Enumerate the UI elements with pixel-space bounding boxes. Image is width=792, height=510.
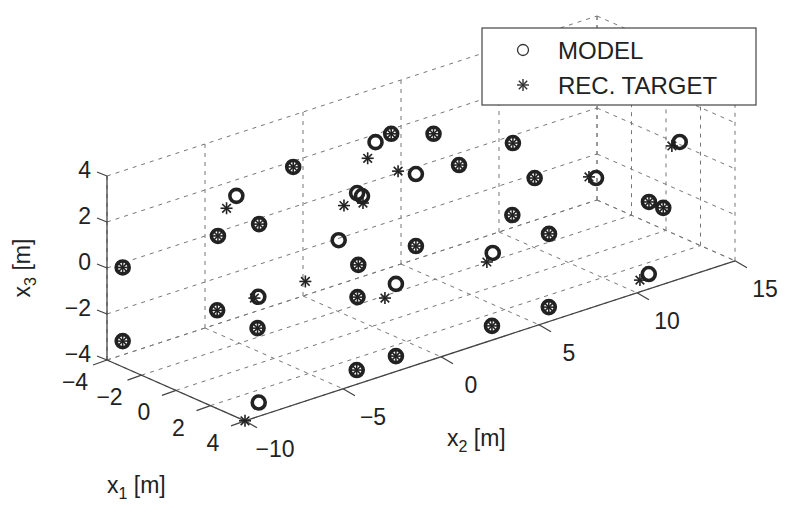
x2-tick xyxy=(637,293,649,300)
x2-tick-label: 15 xyxy=(752,276,778,302)
x3-axis-label: x3 [m] xyxy=(9,239,39,298)
rec-target-point xyxy=(352,291,364,303)
rec-target-point xyxy=(252,322,264,334)
scatter3d-chart: −4−2024−4−2024−10−5051015 x3 [m] x1 [m] … xyxy=(0,0,792,510)
x1-tick-label: −4 xyxy=(62,369,88,395)
grid-line-back-x3 xyxy=(107,154,597,314)
x3-axis-label-subscript: 3 xyxy=(22,277,39,286)
x2-axis-label: x2 [m] xyxy=(447,425,506,455)
x2-tick xyxy=(735,261,747,268)
model-point xyxy=(409,168,422,181)
x3-tick-label: 4 xyxy=(78,157,91,183)
svg-text:x3 [m]: x3 [m] xyxy=(9,239,39,298)
x2-axis-label-subscript: 2 xyxy=(459,438,468,455)
x3-tick xyxy=(97,218,107,222)
rec-target-point xyxy=(543,301,555,313)
grid-line-floor-x2 xyxy=(205,328,343,389)
rec-target-point xyxy=(221,202,233,214)
model-point xyxy=(332,234,345,247)
grid-line-floor-x1 xyxy=(211,246,701,406)
rec-target-point xyxy=(338,200,350,212)
tick-labels: −4−2024−4−2024−10−5051015 xyxy=(62,157,778,462)
model-point xyxy=(486,246,499,259)
rec-target-point xyxy=(385,128,397,140)
rec-target-point xyxy=(253,218,265,230)
legend: MODEL REC. TARGET xyxy=(482,28,756,105)
x1-tick-label: 2 xyxy=(172,415,185,441)
rec-target-point xyxy=(239,415,251,427)
x2-tick-label: 0 xyxy=(465,372,478,398)
x3-tick-label: 2 xyxy=(78,203,91,229)
x1-tick-label: 0 xyxy=(138,399,151,425)
x1-tick-label: −2 xyxy=(96,384,122,410)
x2-tick xyxy=(343,389,355,396)
model-point xyxy=(230,189,243,202)
legend-label-rec-target: REC. TARGET xyxy=(558,72,717,99)
rec-target-point xyxy=(117,335,129,347)
rec-target-point xyxy=(357,197,369,209)
rec-target-point xyxy=(634,274,646,286)
rec-target-point xyxy=(529,172,541,184)
rec-target-point xyxy=(211,304,223,316)
axes xyxy=(93,172,747,428)
rec-target-point xyxy=(583,171,595,183)
model-point xyxy=(389,277,402,290)
x3-tick xyxy=(97,310,107,314)
x1-tick xyxy=(93,360,107,365)
grid-line-floor-x2 xyxy=(401,264,539,325)
x3-tick-label: 0 xyxy=(78,249,91,275)
model-point xyxy=(642,268,655,281)
x3-tick xyxy=(97,264,107,268)
x2-tick-label: 10 xyxy=(654,308,680,334)
rec-target-point xyxy=(212,230,224,242)
svg-text:x1 [m]: x1 [m] xyxy=(107,472,166,502)
x3-tick-label: −2 xyxy=(65,295,91,321)
rec-target-point xyxy=(507,137,519,149)
rec-target-point xyxy=(362,152,374,164)
rec-target-point xyxy=(390,350,402,362)
rec-target-point xyxy=(299,275,311,287)
rec-target-point xyxy=(248,292,260,304)
grid-line-side-x3 xyxy=(597,108,735,169)
rec-target-point xyxy=(643,196,655,208)
x3-tick xyxy=(97,356,107,360)
x1-tick xyxy=(162,390,176,395)
x1-tick xyxy=(128,375,142,380)
rec-target-point xyxy=(543,228,555,240)
x2-tick xyxy=(539,325,551,332)
x2-tick-label: 5 xyxy=(563,340,576,366)
x2-tick xyxy=(441,357,453,364)
grid-line-floor-x1 xyxy=(176,230,666,390)
x3-tick xyxy=(97,172,107,176)
x2-tick-label: −5 xyxy=(360,404,386,430)
rec-target-point xyxy=(352,259,364,271)
model-point xyxy=(369,136,382,149)
grid-line-back-x3 xyxy=(107,200,597,360)
x1-tick xyxy=(197,406,211,411)
rec-target-point xyxy=(379,292,391,304)
rec-target-point xyxy=(657,202,669,214)
model-point xyxy=(252,396,265,409)
x3-tick-label: −4 xyxy=(65,341,91,367)
x2-tick-label: −10 xyxy=(255,436,294,462)
rec-target-point xyxy=(351,364,363,376)
rec-target-point xyxy=(453,159,465,171)
grid-line-floor-x1 xyxy=(107,200,597,360)
x2-axis-line xyxy=(245,261,735,421)
grid-line-floor-x2 xyxy=(499,232,637,293)
rec-target-point xyxy=(410,240,422,252)
legend-label-model: MODEL xyxy=(558,37,643,64)
rec-target-point xyxy=(481,256,493,268)
rec-target-point xyxy=(486,320,498,332)
x1-tick-label: 4 xyxy=(207,430,220,456)
rec-target-point xyxy=(428,128,440,140)
rec-target-point xyxy=(287,161,299,173)
svg-text:x2 [m]: x2 [m] xyxy=(447,425,506,455)
rec-target-point xyxy=(666,140,678,152)
rec-target-point xyxy=(506,209,518,221)
rec-target-point xyxy=(392,165,404,177)
x1-axis-label-subscript: 1 xyxy=(119,485,128,502)
grid-line-floor-x2 xyxy=(303,296,441,357)
rec-target-point xyxy=(117,261,129,273)
x1-axis-label: x1 [m] xyxy=(107,472,166,502)
